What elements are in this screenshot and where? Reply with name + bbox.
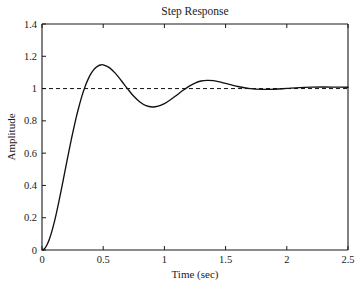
y-tick-label: 0.2 [24, 212, 37, 223]
x-tick-label: 2 [284, 254, 289, 265]
y-tick-label: 0.8 [24, 115, 37, 126]
x-tick-label: 0 [39, 254, 44, 265]
chart-canvas: Step Response 00.20.40.60.811.21.4 00.51… [0, 0, 363, 289]
x-tick-label: 1 [162, 254, 167, 265]
y-tick-label: 1.2 [24, 51, 37, 62]
x-axis-label: Time (sec) [172, 268, 219, 281]
x-tick-label: 2.5 [341, 254, 354, 265]
figure-background [0, 0, 363, 289]
chart-title: Step Response [161, 5, 228, 18]
y-tick-label: 1.4 [24, 19, 38, 30]
x-tick-label: 1.5 [219, 254, 232, 265]
y-tick-label: 1 [32, 83, 37, 94]
y-tick-label: 0 [32, 245, 37, 256]
y-tick-label: 0.4 [24, 180, 38, 191]
x-tick-label: 0.5 [97, 254, 110, 265]
y-axis-label: Amplitude [5, 113, 17, 160]
step-response-figure: Step Response 00.20.40.60.811.21.4 00.51… [0, 0, 363, 289]
y-tick-label: 0.6 [24, 148, 37, 159]
